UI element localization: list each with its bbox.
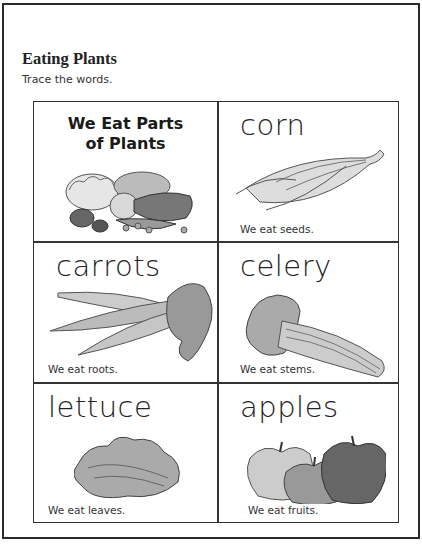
intro-heading-line1: We Eat Parts [34, 114, 217, 134]
plant-cell-corn: corn We eat seeds. [218, 102, 400, 241]
intro-heading: We Eat Parts of Plants [34, 114, 217, 154]
plant-caption: We eat roots. [48, 363, 118, 375]
corn-icon [236, 146, 386, 216]
trace-word: lettuce [48, 390, 152, 424]
instruction-text: Trace the words. [22, 73, 113, 86]
carrots-icon [48, 283, 218, 363]
plant-caption: We eat leaves. [48, 504, 125, 516]
plant-caption: We eat stems. [240, 363, 315, 375]
vegetables-icon [54, 162, 204, 237]
worksheet-page: Eating Plants Trace the words. We Eat Pa… [2, 3, 420, 539]
plant-caption: We eat seeds. [240, 223, 314, 235]
plant-cell-celery: celery We eat stems. [218, 243, 400, 382]
lettuce-icon [74, 434, 184, 506]
plant-cell-lettuce: lettuce We eat leaves. [34, 384, 217, 522]
trace-word: celery [240, 249, 332, 283]
plant-cell-apples: apples We eat fruits. [218, 384, 400, 522]
trace-word: carrots [56, 249, 161, 283]
page-title: Eating Plants [22, 49, 117, 69]
apples-icon [246, 434, 386, 504]
plant-cell-carrots: carrots We eat roots. [34, 243, 217, 382]
intro-heading-line2: of Plants [34, 134, 217, 154]
plant-parts-grid: We Eat Parts of Plants corn [33, 101, 399, 523]
plant-caption: We eat fruits. [248, 504, 318, 516]
trace-word: apples [240, 390, 339, 424]
intro-cell: We Eat Parts of Plants [34, 102, 217, 241]
trace-word: corn [240, 108, 305, 142]
